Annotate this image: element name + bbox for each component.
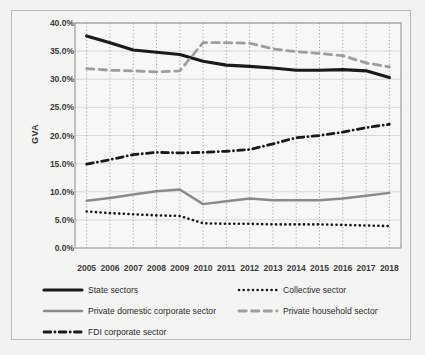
legend-item[interactable]: Collective sector: [237, 283, 346, 297]
legend-item-label: FDI corporate sector: [88, 327, 166, 337]
legend-item-label: Private household sector: [283, 306, 378, 316]
plot-area: GVA 0.0%5.0%10.0%15.0%20.0%25.0%30.0%35.…: [12, 11, 412, 279]
legend-item[interactable]: State sectors: [42, 283, 138, 297]
legend-item[interactable]: Private domestic corporate sector: [42, 304, 216, 318]
legend-item[interactable]: Private household sector: [237, 304, 378, 318]
chart-canvas: [12, 11, 412, 279]
x-axis-tick-labels: 2005200620072008200920102011201220132014…: [75, 260, 412, 278]
legend-item[interactable]: FDI corporate sector: [42, 325, 166, 339]
chart-legend: State sectorsCollective sectorPrivate do…: [12, 279, 412, 341]
legend-swatch-icon: [42, 326, 84, 338]
x-axis-tick-label: 2018: [374, 263, 404, 273]
chart-container: GVA 0.0%5.0%10.0%15.0%20.0%25.0%30.0%35.…: [11, 10, 411, 340]
legend-item-label: State sectors: [88, 285, 138, 295]
legend-swatch-icon: [42, 284, 84, 296]
legend-swatch-icon: [237, 284, 279, 296]
legend-swatch-icon: [237, 305, 279, 317]
legend-swatch-icon: [42, 305, 84, 317]
legend-item-label: Collective sector: [283, 285, 346, 295]
legend-item-label: Private domestic corporate sector: [88, 306, 216, 316]
